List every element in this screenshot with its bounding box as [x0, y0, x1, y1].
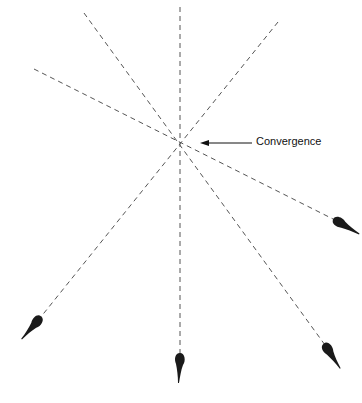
blob-bottom-right	[320, 341, 345, 371]
ray-nw-se	[84, 13, 325, 345]
arrow-head-icon	[200, 140, 209, 146]
blob-bottom-center	[175, 353, 185, 383]
convergence-diagram	[0, 0, 362, 403]
blob-bottom-left	[19, 313, 45, 343]
sperm-blobs	[19, 215, 362, 383]
ray-ne-sw	[40, 22, 278, 318]
blob-right	[331, 215, 362, 237]
convergence-arrow	[200, 140, 252, 146]
convergence-label: Convergence	[256, 135, 321, 147]
rays	[34, 7, 335, 355]
